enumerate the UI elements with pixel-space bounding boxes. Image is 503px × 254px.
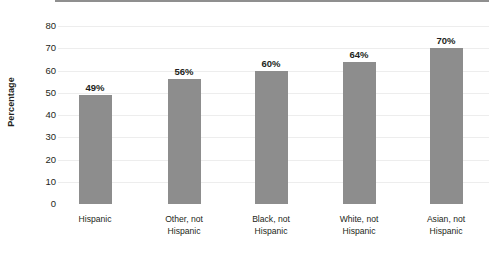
y-axis-title-text: Percentage [6, 77, 16, 127]
x-axis-category-label: Other, not Hispanic [142, 214, 227, 237]
gridline [58, 26, 489, 27]
y-axis-tick-label: 60 [30, 66, 56, 76]
bar [430, 48, 463, 204]
y-axis-tick-label: 30 [30, 132, 56, 142]
y-axis-tick-label: 70 [30, 43, 56, 53]
bar-value-label: 70% [417, 35, 476, 46]
gridline [58, 48, 489, 49]
plot-area: 49%Hispanic56%Other, not Hispanic60%Blac… [58, 0, 489, 254]
bar-chart: Percentage 80706050403020100 49%Hispanic… [0, 0, 503, 254]
y-axis-title: Percentage [0, 0, 22, 204]
y-axis-tick-label: 80 [30, 21, 56, 31]
bar-value-label: 64% [330, 49, 389, 60]
x-axis-category-label: Asian, not Hispanic [404, 214, 489, 237]
y-axis-tick-label: 10 [30, 177, 56, 187]
y-axis-tick-label: 0 [30, 199, 56, 209]
x-axis-category-label: Hispanic [53, 214, 138, 226]
y-axis-tick-label: 40 [30, 110, 56, 120]
bar [79, 95, 112, 204]
x-axis-baseline [55, 0, 489, 2]
y-axis-tick-labels: 80706050403020100 [22, 0, 56, 254]
bar-value-label: 56% [155, 66, 214, 77]
bar-value-label: 49% [66, 82, 125, 93]
x-axis-category-label: White, not Hispanic [317, 214, 402, 237]
bar [168, 79, 201, 204]
y-axis-tick-label: 20 [30, 155, 56, 165]
x-axis-category-label: Black, not Hispanic [229, 214, 314, 237]
bar [255, 71, 288, 205]
bar-value-label: 60% [242, 58, 301, 69]
bar [343, 62, 376, 204]
y-axis-tick-label: 50 [30, 88, 56, 98]
